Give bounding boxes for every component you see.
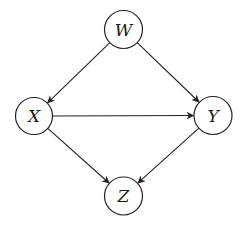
edge-y-to-z: [138, 128, 199, 183]
node-z: Z: [105, 177, 143, 215]
node-w: W: [105, 11, 143, 49]
node-x: X: [16, 98, 53, 135]
node-label: X: [26, 106, 41, 126]
edge-w-to-y: [137, 43, 199, 102]
causal-diagram: WXYZ: [0, 0, 244, 231]
nodes: WXYZ: [16, 11, 233, 216]
edge-w-to-x: [48, 43, 110, 103]
node-label: W: [115, 20, 134, 40]
node-label: Z: [117, 186, 131, 206]
edge-x-to-z: [48, 128, 109, 183]
node-label: Y: [207, 106, 220, 126]
edges: [48, 43, 199, 183]
node-y: Y: [194, 97, 232, 135]
